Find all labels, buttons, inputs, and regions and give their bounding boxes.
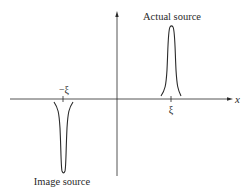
image-source-trough bbox=[54, 102, 73, 173]
tick-label-xi: ξ bbox=[169, 104, 174, 116]
actual-source-peak bbox=[161, 26, 181, 96]
actual-source-label: Actual source bbox=[143, 11, 201, 22]
source-diagram: x ξ −ξ Actual source Image source bbox=[0, 0, 243, 193]
y-axis-arrow-icon bbox=[115, 11, 118, 17]
image-source-label: Image source bbox=[34, 176, 91, 187]
tick-label-neg-xi: −ξ bbox=[59, 84, 70, 96]
x-axis-arrow-icon bbox=[227, 97, 233, 100]
x-axis-label: x bbox=[234, 93, 240, 105]
